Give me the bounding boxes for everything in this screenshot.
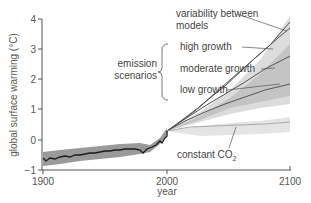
y-tick-label: 4: [30, 14, 36, 25]
constant-co2-label: constant CO2: [177, 149, 237, 162]
variability-label: models: [176, 20, 208, 31]
y-tick-label: 0: [30, 135, 36, 146]
x-axis-label: year: [157, 186, 177, 197]
y-ticks: [38, 19, 42, 170]
emission-label: scenarios: [114, 70, 157, 81]
variability-leader: [237, 14, 287, 31]
x-tick-label: 2100: [279, 176, 302, 187]
y-tick-label: 1: [30, 104, 36, 115]
historical-band: [43, 128, 167, 166]
y-tick-label: 3: [30, 44, 36, 55]
moderate-growth-label: moderate growth: [180, 63, 255, 74]
y-tick-label: −1: [25, 165, 37, 176]
warming-chart: 4 3 2 1 0 −1 1900 2000 2100 year global …: [0, 0, 311, 203]
y-tick-label: 2: [30, 74, 36, 85]
y-axis-label: global surface warming (°C): [8, 33, 19, 157]
emission-label: emission: [118, 58, 157, 69]
high-growth-label: high growth: [180, 41, 232, 52]
constant-co2-band: [167, 117, 290, 136]
low-growth-label: low growth: [180, 84, 228, 95]
x-tick-label: 1900: [32, 176, 55, 187]
scenario-brace: [158, 44, 168, 100]
